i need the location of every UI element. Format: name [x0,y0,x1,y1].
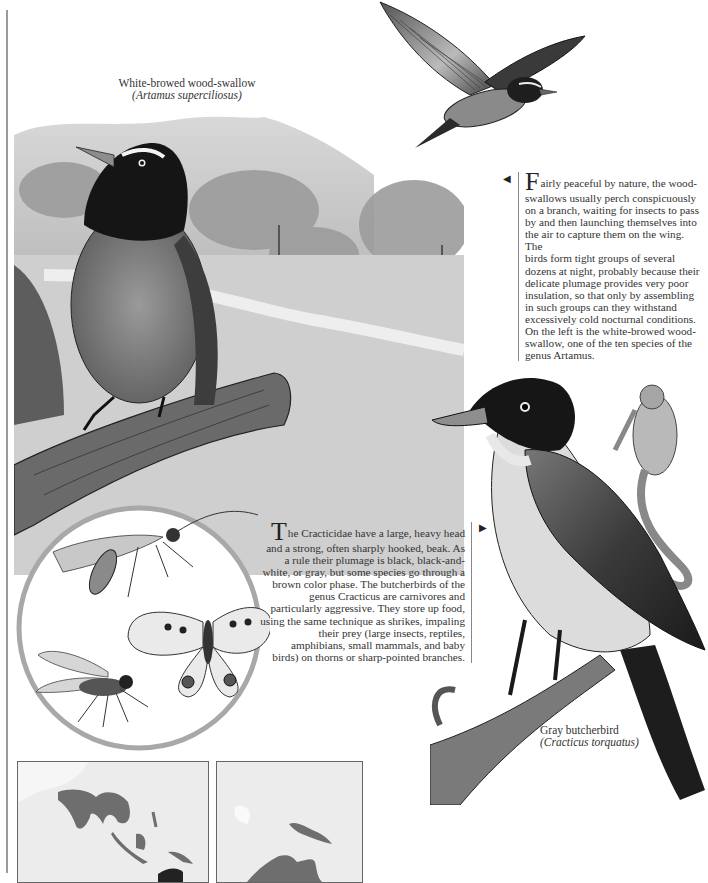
butcherbird-common-name: Gray butcherbird [540,724,640,736]
asia-map-graphic [18,762,208,882]
paragraph-line: excessively cold nocturnal conditions. [525,313,696,325]
distribution-map-asia [17,761,209,883]
paragraph-line: insulation, so that only by assembling [525,289,694,301]
wood-swallow-common-name: White-browed wood-swallow [97,77,277,89]
wood-swallow-caption: White-browed wood-swallow (Artamus super… [97,77,277,101]
australia-map-graphic [217,762,362,882]
paragraph-line: birds form tight groups of several [525,252,675,264]
pointer-left-arrow-icon: ◀ [503,173,511,184]
paragraph-line: swallows usually perch conspicuously [525,192,696,204]
paragraph-line: in such groups can they withstand [525,301,677,313]
paragraph-line: swallow, one of the ten species of the [525,337,692,349]
insects-circle-illustration [8,497,270,759]
paragraph-line: by and then launching themselves into [525,216,697,228]
paragraph-line: On the left is the white-browed wood- [525,325,696,337]
paragraph-line: the air to capture them on the wing. The [525,228,684,252]
paragraph-line: delicate plumage provides very poor [525,277,688,289]
distribution-map-australia [216,761,363,883]
wood-swallows-paragraph-block: ◀ Fairly peaceful by nature, the wood- s… [504,172,704,361]
butcherbird-scientific-name: (Cracticus torquatus) [540,736,640,748]
paragraph-line: dozens at night, probably because their [525,265,700,277]
paragraph-line: genus Artamus. [525,349,595,361]
wood-swallows-paragraph: Fairly peaceful by nature, the wood- swa… [518,172,704,361]
butcherbird-caption: Gray butcherbird (Cracticus torquatus) [540,724,640,748]
paragraph-line: airly peaceful by nature, the wood- [540,177,697,189]
paragraph-line: on a branch, waiting for insects to pass [525,204,699,216]
wood-swallow-scientific-name: (Artamus superciliosus) [97,89,277,101]
